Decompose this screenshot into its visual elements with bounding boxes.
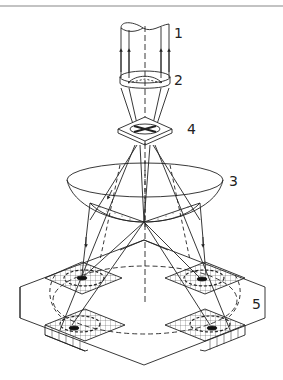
diagram-drawing xyxy=(0,0,283,380)
label-5: 5 xyxy=(252,297,261,311)
plate-with-cross xyxy=(118,117,172,145)
detector-pad-front-right xyxy=(165,309,245,351)
label-2: 2 xyxy=(174,73,183,87)
diagram: 1 2 4 3 5 xyxy=(0,0,283,380)
label-4: 4 xyxy=(187,122,196,136)
paraboloid-mirror xyxy=(67,160,223,275)
detector-pad-back-left xyxy=(45,262,122,294)
base-block xyxy=(20,240,265,365)
label-3: 3 xyxy=(229,174,238,188)
label-1: 1 xyxy=(174,26,183,40)
detector-pad-front-left xyxy=(45,309,125,351)
detector-pad-back-right xyxy=(165,262,245,294)
